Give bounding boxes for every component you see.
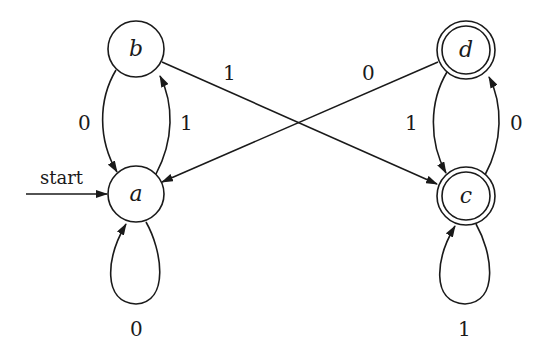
edge-c-loop: [440, 224, 490, 304]
edge-label-c-loop: 1: [458, 317, 471, 341]
edge-label-d-to-a: 0: [362, 61, 375, 85]
state-label-a: a: [129, 181, 142, 206]
edge-b-to-a: [103, 70, 117, 172]
automaton-diagram: start 0 1 1 0 1 0: [0, 0, 546, 352]
edge-label-a-loop: 0: [130, 317, 143, 341]
state-a[interactable]: a: [108, 166, 164, 222]
state-label-c: c: [460, 183, 472, 208]
edge-a-to-b: [156, 76, 170, 174]
edge-label-a-to-b: 1: [180, 111, 193, 135]
edge-label-b-to-c: 1: [223, 61, 236, 85]
state-d[interactable]: d: [437, 21, 495, 79]
edge-a-loop: [111, 222, 160, 304]
edge-label-c-to-d: 0: [510, 111, 523, 135]
edge-c-to-d: [485, 77, 499, 175]
edge-d-to-c: [433, 72, 447, 173]
state-c[interactable]: c: [437, 167, 495, 225]
state-label-b: b: [129, 36, 143, 61]
start-label: start: [40, 167, 84, 188]
state-label-d: d: [459, 37, 473, 62]
edge-label-b-to-a: 0: [78, 111, 91, 135]
edge-label-d-to-c: 1: [405, 111, 418, 135]
state-b[interactable]: b: [108, 21, 164, 77]
